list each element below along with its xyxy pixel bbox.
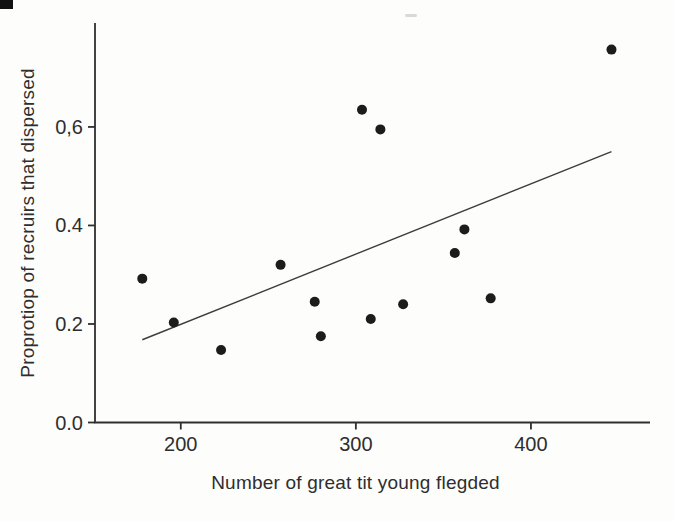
axis-line bbox=[95, 23, 650, 423]
x-tick-label: 300 bbox=[339, 433, 372, 455]
x-axis-label: Number of great tit young flegded bbox=[78, 472, 633, 498]
data-point bbox=[486, 293, 496, 303]
y-tick-label: 0.0 bbox=[55, 412, 83, 434]
data-point bbox=[375, 124, 385, 134]
data-point bbox=[216, 345, 226, 355]
x-tick-label: 200 bbox=[164, 433, 197, 455]
x-tick-label: 400 bbox=[514, 433, 547, 455]
data-point bbox=[459, 224, 469, 234]
data-point bbox=[450, 248, 460, 258]
data-point bbox=[357, 105, 367, 115]
data-point bbox=[398, 299, 408, 309]
data-point bbox=[316, 331, 326, 341]
trend-line bbox=[142, 152, 611, 340]
data-point bbox=[310, 297, 320, 307]
scatter-figure: 2003004000.00.20.40,6 Number of great ti… bbox=[0, 0, 674, 521]
y-tick-label: 0.4 bbox=[55, 214, 83, 236]
scatter-plot-canvas: 2003004000.00.20.40,6 bbox=[0, 0, 674, 521]
data-point bbox=[366, 314, 376, 324]
data-point bbox=[137, 274, 147, 284]
y-tick-label: 0,6 bbox=[55, 116, 83, 138]
y-axis-label: Proprotiop of recruirs that dispersed bbox=[17, 43, 43, 403]
data-point bbox=[169, 318, 179, 328]
data-point bbox=[606, 45, 616, 55]
data-point bbox=[276, 260, 286, 270]
y-tick-label: 0.2 bbox=[55, 313, 83, 335]
